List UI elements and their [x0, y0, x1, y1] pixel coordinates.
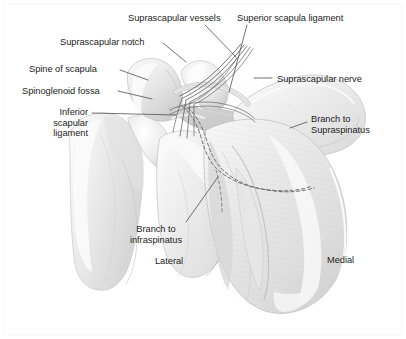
leader-suprascapular-vessels [205, 25, 236, 57]
label-spinoglenoid-fossa: Spinoglenoid fossa [22, 86, 100, 97]
anatomy-figure: Suprascapular vessels Superior scapula l… [0, 0, 406, 339]
label-suprascapular-nerve: Suprascapular nerve [277, 74, 362, 85]
label-superior-scapula-ligament: Superior scapula ligament [237, 13, 343, 24]
scapula-illustration [0, 0, 406, 339]
leader-superior-scapula-ligament [229, 25, 247, 92]
humerus-bone [69, 113, 144, 290]
label-inferior-scapular-ligament: Inferior scapular ligament [14, 107, 88, 139]
label-branch-to-infraspinatus: Branch to infraspinatus [123, 224, 189, 245]
label-branch-to-supraspinatus: Branch to Supraspinatus [311, 114, 370, 135]
leader-suprascapular-notch [163, 43, 186, 62]
label-suprascapular-notch: Suprascapular notch [60, 37, 144, 48]
label-suprascapular-vessels: Suprascapular vessels [128, 13, 220, 24]
label-medial-orientation: Medial [327, 255, 354, 266]
label-lateral-orientation: Lateral [155, 256, 183, 267]
label-spine-of-scapula: Spine of scapula [29, 64, 97, 75]
